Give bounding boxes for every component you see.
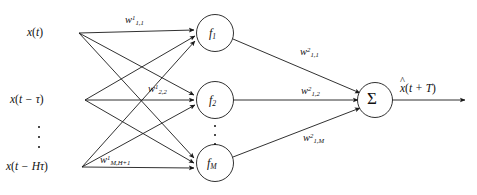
weight-label-w1-2-2: w12,2	[148, 84, 167, 95]
node-label-fM: fM	[207, 157, 217, 169]
hidden-node-ellipsis	[212, 125, 218, 145]
layer2-edge-group	[233, 39, 360, 157]
weight-label-w1-M-H1: w1M,H+1	[100, 155, 130, 166]
weight-label-w2-1-M: w21,M	[303, 133, 324, 144]
weight-label-w2-1-2: w21,2	[301, 86, 320, 97]
sum-node-label: Σ	[367, 90, 377, 107]
hat-accent-icon: ^	[400, 76, 405, 87]
edge-x3-f1	[82, 41, 195, 167]
node-label-f2: f2	[209, 94, 216, 106]
layer1-edge-group	[79, 30, 195, 168]
edge-x1-f2	[79, 33, 194, 95]
weight-label-w1-1-1: w11,1	[125, 15, 144, 26]
neural-network-diagram: x(t) x(t − τ) x(t − Hτ) w11,1 w12,2 w1M,…	[0, 0, 477, 195]
edge-x1-fM	[79, 33, 194, 158]
edge-f1-sigma	[233, 39, 360, 93]
edge-x1-f1	[79, 30, 194, 33]
input-label-x-t: x(t)	[27, 27, 43, 39]
output-label-x-hat: ^x(t + T)	[400, 83, 436, 95]
input-label-x-t-Htau: x(t − Hτ)	[6, 161, 48, 173]
edge-fM-sigma	[233, 108, 360, 157]
node-label-f1: f1	[209, 27, 216, 39]
input-label-x-t-tau: x(t − τ)	[10, 94, 44, 106]
weight-label-w2-1-1: w21,1	[300, 47, 319, 58]
edge-x3-f2	[82, 105, 195, 167]
input-ellipsis	[36, 126, 42, 148]
edge-x3-fM	[82, 167, 194, 168]
network-edges-canvas	[0, 0, 477, 195]
